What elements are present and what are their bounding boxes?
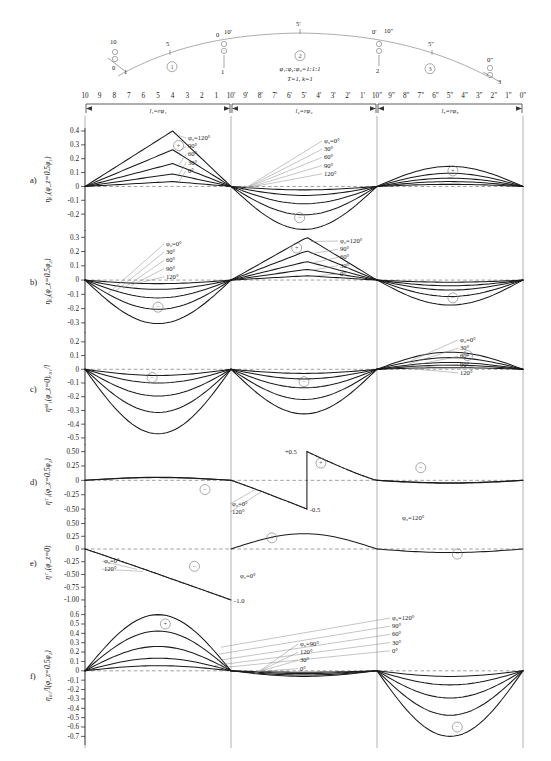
series-legend-label: 90° — [188, 142, 198, 149]
series-legend-label: 60° — [324, 153, 334, 160]
y-tick-label: 0.3 — [70, 234, 79, 242]
series-legend-label: 30° — [340, 262, 350, 269]
y-tick-label: -0.75 — [64, 584, 79, 592]
sector-label: 3 — [428, 65, 431, 72]
hinge-circle — [112, 56, 117, 61]
engineering-influence-line-figure: 55'5"1001010'10'10"20"3123φ₁:φ₂:φ₃=1:1:1… — [0, 0, 551, 761]
y-tick-label: 0.2 — [70, 248, 79, 256]
legend-leader-line — [239, 141, 322, 192]
sign-symbol: − — [455, 550, 459, 557]
arch-node — [487, 65, 492, 77]
y-tick-label: 0.25 — [66, 462, 79, 470]
curve-e-seg2 — [231, 534, 377, 549]
y-tick-label: 0.4 — [70, 127, 79, 135]
series-legend-label: 30° — [324, 145, 334, 152]
curve-f-seg1 — [85, 615, 231, 671]
hinge-circle — [487, 65, 492, 70]
sign-symbol: + — [319, 459, 323, 466]
series-legend-label: 90° — [166, 265, 176, 272]
y-tick-label: -0.25 — [64, 491, 79, 499]
legend-leader-line — [243, 157, 322, 189]
figure-root: 55'5"1001010'10'10"20"3123φ₁:φ₂:φ₃=1:1:1… — [0, 0, 551, 761]
legend-leader-line — [107, 244, 164, 294]
curve-f-seg1 — [85, 666, 231, 671]
station-label: 6 — [142, 92, 146, 100]
series-legend-label: φ₀=0° — [460, 336, 476, 343]
station-label: 10 — [81, 92, 89, 100]
legend-leader-line — [241, 149, 322, 190]
hinge-circle — [376, 48, 381, 53]
y-tick-label: 0.3 — [70, 141, 79, 149]
hinge-circle — [221, 41, 226, 46]
panel-letter: a) — [30, 175, 37, 185]
station-label: 6" — [432, 92, 439, 100]
y-tick-label: -0.7 — [68, 733, 80, 741]
curve-c-seg1 — [85, 369, 231, 375]
y-axis-label: ηᴹ₁(φ_z=0)ᵣ₀₁/l — [43, 365, 52, 412]
y-tick-label: -0.1 — [68, 291, 80, 299]
legend-leader-line — [311, 249, 338, 254]
station-label: 3' — [331, 92, 336, 100]
series-legend-label: 30° — [300, 656, 310, 663]
svg-text:10': 10' — [224, 28, 232, 35]
series-legend-label: φ₀=0° — [324, 137, 340, 144]
station-label: 0" — [520, 92, 527, 100]
span-arrow — [224, 106, 230, 110]
arch-node — [221, 41, 226, 53]
y-tick-label: 0.2 — [70, 155, 79, 163]
y-tick-label: -0.5 — [68, 434, 80, 442]
y-tick-label: -0.25 — [64, 558, 79, 566]
annotation-minus-one: -1.0 — [234, 597, 245, 604]
svg-text:2: 2 — [376, 67, 379, 74]
series-legend-label: 90° — [340, 245, 350, 252]
svg-text:1: 1 — [124, 68, 127, 75]
svg-text:0: 0 — [216, 31, 220, 38]
panel-letter: b) — [30, 277, 37, 287]
panel-f: 0.60.50.40.30.20.10-0.1-0.2-0.3-0.4-0.5-… — [30, 606, 523, 745]
panel-letter: d) — [30, 477, 37, 487]
series-legend-label: φ₀=120° — [188, 134, 211, 141]
sign-symbol: + — [295, 244, 299, 251]
hinge-circle — [112, 49, 117, 54]
y-axis-label: ηᵀ₁(φ_z=0.5φ₂) — [43, 458, 52, 505]
legend-leader-line — [311, 274, 338, 276]
station-scale: 1098765432110'9'8'7'6'5'4'3'2'1'10"9"8"7… — [81, 92, 526, 114]
y-tick-label: 0.50 — [66, 520, 79, 528]
sign-symbol: − — [298, 214, 302, 221]
y-tick-label: -0.3 — [68, 695, 80, 703]
svg-text:1: 1 — [221, 68, 224, 75]
y-axis-label: ηᵀ₁(φ_z=0) — [43, 545, 52, 580]
sign-symbol: + — [163, 620, 167, 627]
station-label: 8 — [112, 92, 116, 100]
y-tick-label: -0.2 — [68, 393, 80, 401]
y-axis-label: η₀₁/l(φ_z=0.5φ₂) — [43, 650, 52, 701]
curve-d-seg2-alt — [307, 452, 377, 481]
series-legend-label: φ₀=120° — [392, 614, 415, 621]
series-legend-label: 0° — [392, 647, 398, 654]
series-legend-label: 0° — [340, 270, 346, 277]
panel-letter: e) — [30, 558, 37, 568]
y-tick-label: -0.2 — [68, 211, 80, 219]
y-tick-label: -1.00 — [64, 596, 79, 604]
sign-symbol: − — [451, 294, 455, 301]
y-tick-label: -0.2 — [68, 305, 80, 313]
y-tick-label: 0 — [75, 183, 79, 191]
curve-b-seg2 — [231, 238, 377, 280]
station-label: 10" — [372, 92, 382, 100]
y-tick-label: 0.2 — [70, 648, 79, 656]
station-label: 2" — [491, 92, 498, 100]
sign-symbol: − — [156, 303, 160, 310]
station-label: 1" — [505, 92, 512, 100]
sign-symbol: + — [466, 352, 470, 359]
y-tick-label: -0.3 — [68, 319, 80, 327]
y-tick-label: 0 — [75, 276, 79, 284]
curve-b-seg3 — [377, 280, 523, 305]
y-tick-label: 0 — [75, 667, 79, 675]
station-label: 7' — [272, 92, 277, 100]
sign-symbol: − — [150, 374, 154, 381]
station-label: 3" — [476, 92, 483, 100]
curve-e-seg3 — [377, 549, 523, 553]
legend-leader-line — [115, 252, 164, 291]
y-tick-label: 0.5 — [70, 620, 79, 628]
series-legend-label: φ₀=120° — [340, 237, 363, 244]
